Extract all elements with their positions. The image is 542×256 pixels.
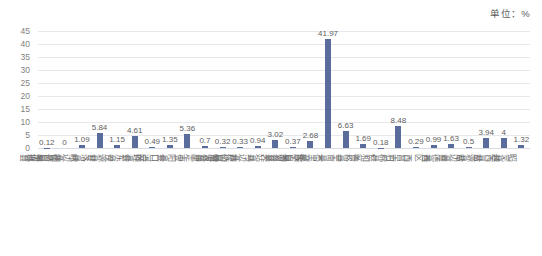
- bar[interactable]: 4.61: [132, 136, 138, 148]
- bar-value-label: 3.02: [268, 131, 284, 139]
- y-tick-35: 35: [21, 52, 30, 62]
- bar-value-label: 0.29: [408, 138, 424, 146]
- bar-value-label: 4: [502, 129, 506, 137]
- bar-slot: 0.29: [407, 31, 425, 148]
- bar[interactable]: 1.35: [167, 145, 173, 149]
- bar[interactable]: 1.09: [79, 145, 85, 148]
- y-tick-45: 45: [21, 26, 30, 36]
- bar-slot: 0.94: [249, 31, 267, 148]
- bar-value-label: 0.18: [373, 139, 389, 147]
- x-axis-category-labels: 布拖县德昌县峨边彝族自治县甘洛县汉源县会东县会理县金口河区金阳县康定市雷波县芦山…: [38, 150, 530, 254]
- bar[interactable]: 1.15: [114, 145, 120, 148]
- bar-value-label: 8.48: [391, 117, 407, 125]
- x-label-slot: 美姑县: [267, 150, 285, 254]
- bar[interactable]: 0.49: [149, 147, 155, 148]
- bar-value-label: 0: [62, 139, 66, 147]
- x-label-slot: 仁和区: [372, 150, 390, 254]
- bar-value-label: 0.7: [199, 137, 210, 145]
- x-label-slot: 西区: [425, 150, 443, 254]
- bar[interactable]: 3.94: [483, 138, 489, 148]
- bar[interactable]: 0.37: [290, 147, 296, 148]
- bar-value-label: 1.63: [443, 135, 459, 143]
- x-label-slot: 金阳县: [179, 150, 197, 254]
- x-axis-label-text: 峨边彝族自治县: [25, 152, 78, 160]
- bar[interactable]: 0.7: [202, 146, 208, 148]
- bar-value-label: 6.63: [338, 122, 354, 130]
- bar[interactable]: 1.63: [448, 144, 454, 148]
- x-label-slot: 西昌市: [407, 150, 425, 254]
- x-label-slot: 昭觉县: [513, 150, 531, 254]
- bar[interactable]: 4: [501, 138, 507, 148]
- y-tick-5: 5: [25, 130, 30, 140]
- y-tick-25: 25: [21, 78, 30, 88]
- bar-value-label: 5.36: [180, 125, 196, 133]
- bar[interactable]: 0.29: [413, 147, 419, 148]
- x-label-slot: 汉源县: [108, 150, 126, 254]
- bar-value-label: 0.37: [285, 138, 301, 146]
- x-axis-label-text: 昭觉县: [495, 152, 518, 160]
- bar[interactable]: 1.69: [360, 144, 366, 148]
- x-label-slot: 普格县: [354, 150, 372, 254]
- x-label-slot: 布拖县: [38, 150, 56, 254]
- y-tick-30: 30: [21, 65, 30, 75]
- bar-series: 0.1201.095.841.154.610.491.355.360.70.32…: [38, 31, 530, 148]
- bar[interactable]: 41.97: [325, 39, 331, 148]
- bar-value-label: 4.61: [127, 127, 143, 135]
- bar[interactable]: 0.32: [220, 147, 226, 148]
- bar-slot: 1.63: [442, 31, 460, 148]
- bar-value-label: 41.97: [318, 30, 338, 38]
- bar-value-label: 0.99: [426, 136, 442, 144]
- bar-slot: 4: [495, 31, 513, 148]
- x-axis-label: 木里藏族自治县: [272, 152, 325, 160]
- bar[interactable]: 5.36: [184, 134, 190, 148]
- x-label-slot: 峨边彝族自治县: [73, 150, 91, 254]
- bar-value-label: 0.49: [144, 138, 160, 146]
- bar-value-label: 1.32: [514, 136, 530, 144]
- x-label-slot: 石棉县: [390, 150, 408, 254]
- unit-note: 单位：%: [490, 6, 530, 20]
- bar[interactable]: 0.99: [431, 145, 437, 148]
- x-axis-label-text: 西昌市: [389, 152, 412, 160]
- bar-slot: 2.68: [302, 31, 320, 148]
- x-axis-label: 峨边彝族自治县: [25, 152, 78, 160]
- bar-slot: 0.33: [231, 31, 249, 148]
- bar[interactable]: 2.68: [307, 141, 313, 148]
- bar-slot: 1.35: [161, 31, 179, 148]
- bar[interactable]: 0.5: [466, 147, 472, 148]
- bar[interactable]: 1.32: [518, 145, 524, 148]
- y-tick-15: 15: [21, 104, 30, 114]
- bar[interactable]: 0.94: [255, 146, 261, 148]
- bar-value-label: 1.15: [109, 136, 125, 144]
- bar-slot: 0.32: [214, 31, 232, 148]
- bar-slot: 3.02: [267, 31, 285, 148]
- bar-slot: 0.99: [425, 31, 443, 148]
- y-tick-40: 40: [21, 39, 30, 49]
- x-axis-label-text: 木里藏族自治县: [272, 152, 325, 160]
- x-label-slot: 会东县: [126, 150, 144, 254]
- bar-slot: 3.94: [477, 31, 495, 148]
- bar[interactable]: 8.48: [395, 126, 401, 148]
- y-tick-20: 20: [21, 91, 30, 101]
- x-label-slot: 喜德县: [442, 150, 460, 254]
- bar-value-label: 1.69: [355, 135, 371, 143]
- x-label-slot: 德昌县: [56, 150, 74, 254]
- bar-slot: 1.32: [513, 31, 531, 148]
- bar-value-label: 5.84: [92, 124, 108, 132]
- x-label-slot: 会理县: [143, 150, 161, 254]
- bar[interactable]: 6.63: [343, 131, 349, 148]
- bar-slot: 5.36: [179, 31, 197, 148]
- x-label-slot: 木里藏族自治县: [319, 150, 337, 254]
- bar[interactable]: 5.84: [97, 133, 103, 148]
- bar[interactable]: 0.33: [237, 147, 243, 148]
- bar-value-label: 0.5: [463, 138, 474, 146]
- chart-canvas: 单位：% 051015202530354045 0.1201.095.841.1…: [0, 0, 542, 256]
- bar-slot: 0: [56, 31, 74, 148]
- bar-value-label: 0.33: [232, 138, 248, 146]
- bar-slot: 1.09: [73, 31, 91, 148]
- x-label-slot: 金口河区: [161, 150, 179, 254]
- bar-slot: 0.49: [143, 31, 161, 148]
- bar[interactable]: 3.02: [272, 140, 278, 148]
- bar-slot: 0.12: [38, 31, 56, 148]
- bar-slot: 0.37: [284, 31, 302, 148]
- bar-slot: 6.63: [337, 31, 355, 148]
